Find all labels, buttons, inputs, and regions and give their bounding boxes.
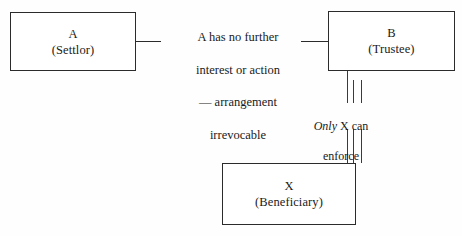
node-label-x: X [284,178,293,194]
annotation-settlor-line-2: interest or action [168,62,308,78]
annotation-beneficiary-enforce: Only X can enforce [295,104,387,180]
annotation-enforce-emphasis: Only [314,119,337,133]
annotation-enforce-line-2: enforce [295,149,387,164]
node-box-trustee: B (Trustee) [328,11,455,71]
annotation-enforce-line-1: Only X can [295,119,387,134]
node-sublabel-settlor: (Settlor) [52,42,95,58]
node-label-a: A [68,26,77,42]
annotation-settlor-irrevocable: A has no further interest or action — ar… [168,13,308,159]
diagram-canvas: A (Settlor) B (Trustee) X (Beneficiary) … [0,0,462,236]
connector-stub-settlor-right [136,41,161,42]
annotation-enforce-rest: X can [337,119,368,133]
node-sublabel-beneficiary: (Beneficiary) [255,194,323,210]
node-sublabel-trustee: (Trustee) [368,41,414,57]
node-box-settlor: A (Settlor) [10,12,136,71]
annotation-settlor-line-4: irrevocable [168,127,308,143]
node-label-b: B [387,25,396,41]
annotation-settlor-line-3: — arrangement [168,94,308,110]
annotation-settlor-line-1: A has no further [168,29,308,45]
